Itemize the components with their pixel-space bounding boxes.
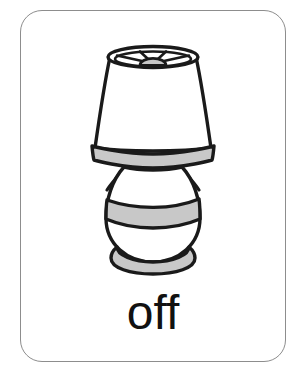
vocabulary-flashcard: off xyxy=(0,0,306,377)
word-label: off xyxy=(20,288,286,338)
